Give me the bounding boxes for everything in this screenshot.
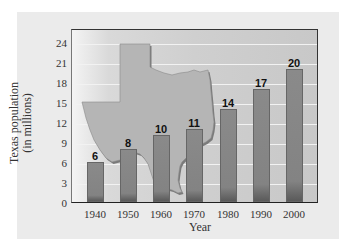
x-tick: 1970: [177, 208, 211, 220]
bar-1970: [186, 129, 203, 202]
data-label-1940: 6: [80, 150, 110, 162]
x-tick: 2000: [277, 208, 311, 220]
data-label-2000: 20: [279, 57, 309, 69]
y-tick: 3: [37, 178, 67, 189]
y-tick: 9: [37, 138, 67, 149]
y-axis-label-line-2: (in millions): [21, 68, 34, 178]
y-tick: 18: [37, 78, 67, 89]
x-tick: 1940: [78, 208, 112, 220]
plot-area: [71, 29, 318, 203]
x-tick: 1950: [111, 208, 145, 220]
data-label-1950: 8: [113, 137, 143, 149]
data-label-1960: 10: [146, 123, 176, 135]
x-tick: 1960: [144, 208, 178, 220]
y-tick: 15: [37, 98, 67, 109]
x-axis-label: Year: [170, 220, 230, 235]
x-tick: 1980: [211, 208, 245, 220]
data-label-1990: 17: [246, 77, 276, 89]
y-tick: 0: [37, 198, 67, 209]
data-label-1980: 14: [213, 97, 243, 109]
bar-1950: [120, 149, 137, 202]
x-tick: 1990: [244, 208, 278, 220]
y-tick: 24: [37, 38, 67, 49]
bar-1940: [87, 162, 104, 202]
data-label-1970: 11: [179, 117, 209, 129]
bar-2000: [286, 69, 303, 202]
y-tick: 6: [37, 158, 67, 169]
y-tick: 21: [37, 58, 67, 69]
y-tick: 12: [37, 118, 67, 129]
bar-1980: [220, 109, 237, 202]
y-axis-label: Texas population (in millions): [8, 68, 34, 178]
bar-1990: [253, 89, 270, 202]
bar-1960: [153, 135, 170, 202]
